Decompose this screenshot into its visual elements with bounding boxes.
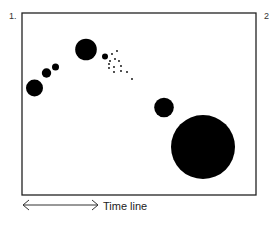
dot <box>109 60 111 62</box>
dot <box>113 71 115 73</box>
dot <box>114 58 116 60</box>
dot-cluster <box>108 50 133 80</box>
circle <box>154 98 174 118</box>
circle <box>171 115 235 179</box>
circle <box>52 64 59 71</box>
double-arrow-icon <box>23 200 98 210</box>
circle <box>75 39 97 61</box>
circle <box>26 80 43 97</box>
dot <box>108 67 110 69</box>
circle-group <box>26 39 235 179</box>
timeline-label: Time line <box>103 200 147 212</box>
circle <box>42 68 51 77</box>
dot <box>120 65 122 67</box>
dot <box>126 71 128 73</box>
circle <box>102 54 108 60</box>
dot <box>108 63 110 65</box>
dot <box>120 70 122 72</box>
dot <box>118 60 120 62</box>
diagram-canvas <box>0 0 269 225</box>
dot <box>131 78 133 80</box>
dot <box>111 53 113 55</box>
dot <box>113 66 115 68</box>
dot <box>116 50 118 52</box>
